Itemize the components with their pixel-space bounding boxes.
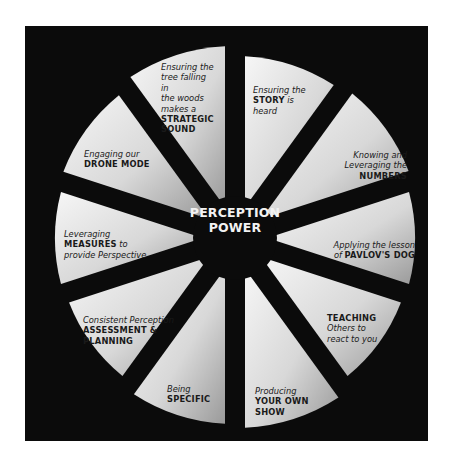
strategic-bold-1: STRATEGIC: [161, 114, 214, 124]
wedge-label-story: Ensuring the STORY is heard: [253, 85, 323, 116]
show-pre: Producing: [255, 386, 296, 396]
strategic-pre-1: Ensuring the: [161, 62, 214, 72]
center-title: PERCEPTION POWER: [160, 205, 310, 235]
teaching-post-1: Others to: [327, 323, 366, 333]
assessment-bold-2: PLANNING: [83, 336, 133, 346]
measures-post-2: provide Perspective: [64, 250, 146, 260]
pavlov-bold: PAVLOV'S DOG: [345, 250, 415, 260]
assessment-bold-1: ASSESSMENT &: [83, 325, 157, 335]
measures-bold: MEASURES: [64, 239, 117, 249]
perception-power-diagram: Ensuring the STORY is heard Knowing and …: [0, 0, 455, 470]
story-post: is: [287, 95, 294, 105]
wedge-label-strategic-sound: Ensuring the tree falling in the woods m…: [161, 62, 216, 135]
story-post-2: heard: [253, 106, 277, 116]
teaching-post-2: react to you: [327, 334, 377, 344]
wedge-label-teaching: TEACHING Others to react to you: [327, 313, 402, 344]
wedge-label-numbers: Knowing and Leveraging the NUMBERS: [322, 150, 407, 181]
specific-bold: SPECIFIC: [167, 394, 210, 404]
story-pre: Ensuring the: [253, 85, 306, 95]
measures-post-1: to: [119, 239, 127, 249]
wedge-label-pavlov: Applying the lesson of PAVLOV'S DOG: [320, 240, 415, 261]
story-bold: STORY: [253, 95, 285, 105]
numbers-pre-1: Knowing and: [353, 150, 407, 160]
pavlov-pre-1: Applying the lesson: [333, 240, 415, 250]
specific-pre: Being: [167, 384, 191, 394]
strategic-pre-4: makes a: [161, 104, 196, 114]
teaching-bold: TEACHING: [327, 313, 376, 323]
drone-pre: Engaging our: [84, 149, 139, 159]
wedge-label-drone-mode: Engaging our DRONE MODE: [84, 149, 174, 170]
wedge-label-your-own-show: Producing YOUR OWN SHOW: [255, 386, 325, 417]
pavlov-pre-2: of: [334, 250, 342, 260]
strategic-bold-2: SOUND: [161, 124, 196, 134]
show-bold-2: SHOW: [255, 407, 285, 417]
wedge-label-measures: Leveraging MEASURES to provide Perspecti…: [64, 229, 164, 260]
center-title-line1: PERCEPTION: [160, 205, 310, 220]
numbers-bold: NUMBERS: [359, 171, 407, 181]
numbers-pre-2: Leveraging the: [344, 160, 407, 170]
strategic-pre-2: tree falling in: [161, 72, 206, 92]
strategic-pre-3: the woods: [161, 93, 204, 103]
drone-bold: DRONE MODE: [84, 159, 150, 169]
center-title-line2: POWER: [160, 220, 310, 235]
wedge-label-assessment: Consistent Perception ASSESSMENT & PLANN…: [83, 315, 183, 346]
show-bold-1: YOUR OWN: [255, 396, 309, 406]
assessment-pre: Consistent Perception: [83, 315, 174, 325]
measures-pre: Leveraging: [64, 229, 110, 239]
wedge-label-specific: Being SPECIFIC: [167, 384, 227, 405]
